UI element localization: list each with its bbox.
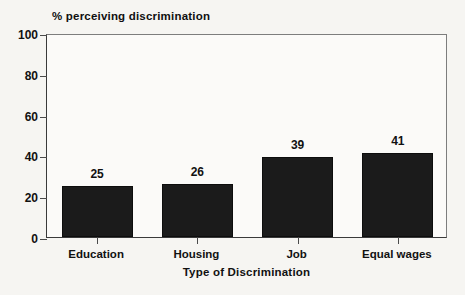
y-tick-label: 20 bbox=[25, 191, 38, 205]
y-tick-mark bbox=[40, 198, 47, 199]
x-tick-mark bbox=[197, 237, 198, 244]
x-tick-mark bbox=[398, 237, 399, 244]
plot-area: 020406080100 25263941 bbox=[46, 34, 447, 238]
y-tick-mark bbox=[40, 35, 47, 36]
x-tick-label: Job bbox=[286, 248, 306, 260]
bar-value-label: 39 bbox=[291, 138, 304, 152]
y-tick-label: 100 bbox=[18, 28, 38, 42]
y-tick-label: 40 bbox=[25, 150, 38, 164]
bar: 39 bbox=[262, 157, 333, 237]
y-tick-label: 60 bbox=[25, 110, 38, 124]
bar: 25 bbox=[62, 186, 133, 237]
bar-value-label: 26 bbox=[191, 165, 204, 179]
y-tick-label: 0 bbox=[31, 232, 38, 246]
chart-title: % perceiving discrimination bbox=[52, 10, 210, 22]
x-tick-mark bbox=[97, 237, 98, 244]
y-tick-mark bbox=[40, 157, 47, 158]
x-tick-label: Education bbox=[68, 248, 124, 260]
bar: 26 bbox=[162, 184, 233, 237]
bar: 41 bbox=[362, 153, 433, 237]
y-tick-mark bbox=[40, 117, 47, 118]
x-tick-label: Housing bbox=[173, 248, 219, 260]
bar-value-label: 41 bbox=[391, 134, 404, 148]
bar-value-label: 25 bbox=[90, 167, 103, 181]
x-tick-mark bbox=[298, 237, 299, 244]
y-tick-label: 80 bbox=[25, 69, 38, 83]
x-tick-label: Equal wages bbox=[362, 248, 432, 260]
y-tick-mark bbox=[40, 239, 47, 240]
x-axis-title: Type of Discrimination bbox=[46, 266, 447, 278]
bar-chart-figure: % perceiving discrimination 020406080100… bbox=[0, 0, 465, 295]
y-tick-mark bbox=[40, 76, 47, 77]
